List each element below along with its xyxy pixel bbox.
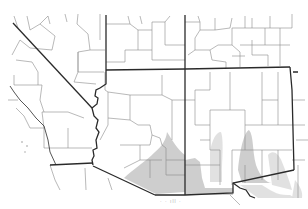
range-gila-lobe <box>210 132 223 182</box>
border-colorado-new-mexico <box>185 67 290 69</box>
range-sw-new-mexico <box>185 158 233 195</box>
range-southeast-faint <box>292 180 302 198</box>
map-caption: · · ıll · <box>160 198 182 204</box>
border-california-nevada <box>13 23 92 108</box>
border-california-mexico <box>50 163 93 165</box>
border-utah-arizona <box>106 69 185 70</box>
border-new-mexico-texas <box>290 67 298 170</box>
map-canvas <box>0 0 308 209</box>
channel-islands <box>21 141 28 153</box>
california-coastline <box>10 86 56 165</box>
range-rio-grande-lobe <box>238 130 272 183</box>
border-arizona-california <box>92 88 100 165</box>
